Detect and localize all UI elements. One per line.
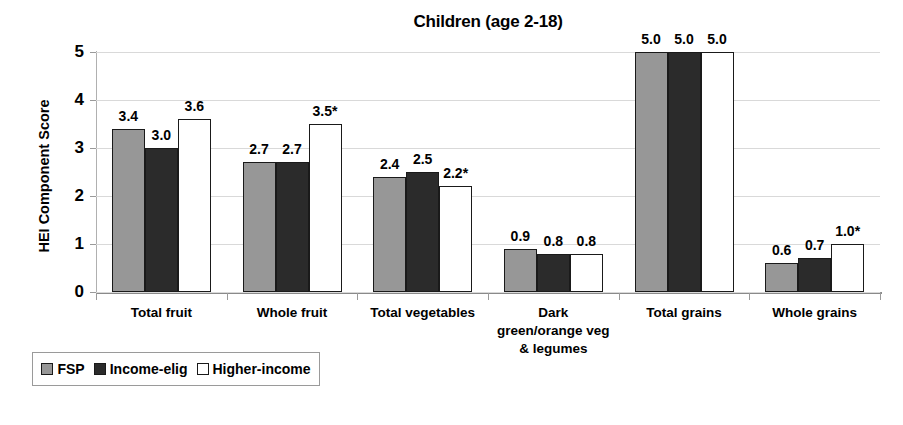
category-label: Whole grains <box>735 304 894 322</box>
legend-label: FSP <box>57 362 84 376</box>
bar[interactable] <box>276 162 309 292</box>
y-tick-label-0: 0 <box>58 283 84 300</box>
bar[interactable] <box>504 249 537 292</box>
x-tick-mark-5 <box>749 292 750 300</box>
legend-swatch-icon <box>197 363 209 375</box>
bar[interactable] <box>570 254 603 292</box>
legend-swatch-icon <box>41 363 53 375</box>
bar[interactable] <box>701 52 734 292</box>
bar[interactable] <box>635 52 668 292</box>
bar-value-label: 3.4 <box>102 109 155 123</box>
bar-value-label: 3.6 <box>168 99 221 113</box>
bar-value-label: 3.0 <box>135 128 188 142</box>
bar[interactable] <box>112 129 145 292</box>
x-tick-mark-0 <box>96 292 97 300</box>
x-tick-mark-6 <box>880 292 881 300</box>
bar[interactable] <box>406 172 439 292</box>
bar[interactable] <box>439 186 472 292</box>
bar-value-label: 5.0 <box>691 32 744 46</box>
x-tick-mark-3 <box>488 292 489 300</box>
category-label-line: green/orange veg <box>474 322 633 340</box>
bar[interactable] <box>537 254 570 292</box>
legend-swatch-icon <box>94 363 106 375</box>
y-tick-label-3: 3 <box>58 139 84 156</box>
gridline-3 <box>96 148 880 149</box>
gridline-5 <box>96 52 880 53</box>
bar-value-label: 0.8 <box>560 234 613 248</box>
legend-entry[interactable]: Income-elig <box>94 362 188 376</box>
x-tick-mark-4 <box>619 292 620 300</box>
bar-value-label: 2.2* <box>429 166 482 180</box>
bar-value-label: 3.5* <box>299 104 352 118</box>
bar[interactable] <box>765 263 798 292</box>
bar[interactable] <box>373 177 406 292</box>
x-tick-mark-2 <box>357 292 358 300</box>
y-tick-label-2: 2 <box>58 187 84 204</box>
bar-value-label: 1.0* <box>821 224 874 238</box>
hei-component-score-bar-chart: Children (age 2-18) HEI Component Score … <box>0 0 903 425</box>
legend-label: Income-elig <box>110 362 188 376</box>
category-label-line: & legumes <box>474 340 633 358</box>
category-label-line: Whole grains <box>735 304 894 322</box>
bar[interactable] <box>178 119 211 292</box>
bar[interactable] <box>798 258 831 292</box>
bar[interactable] <box>243 162 276 292</box>
legend-entry[interactable]: Higher-income <box>197 362 311 376</box>
bar-value-label: 2.5 <box>396 152 449 166</box>
bar[interactable] <box>145 148 178 292</box>
gridline-2 <box>96 196 880 197</box>
bar[interactable] <box>668 52 701 292</box>
y-tick-label-1: 1 <box>58 235 84 252</box>
chart-title: Children (age 2-18) <box>96 12 880 32</box>
legend-entry[interactable]: FSP <box>41 362 84 376</box>
gridline-0 <box>96 292 880 293</box>
legend-label: Higher-income <box>213 362 311 376</box>
chart-legend: FSPIncome-eligHigher-income <box>32 352 320 386</box>
y-tick-label-4: 4 <box>58 91 84 108</box>
bar-value-label: 2.7 <box>266 142 319 156</box>
y-axis-title: HEI Component Score <box>36 56 52 296</box>
bar-value-label: 0.7 <box>788 238 841 252</box>
y-tick-label-5: 5 <box>58 43 84 60</box>
x-tick-mark-1 <box>227 292 228 300</box>
